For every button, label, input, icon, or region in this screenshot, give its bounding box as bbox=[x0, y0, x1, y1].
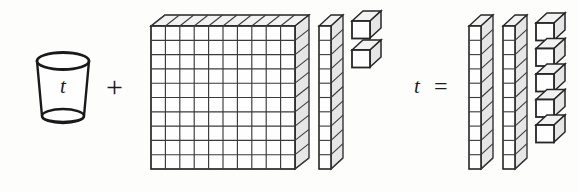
figure-canvas: t + bbox=[0, 0, 579, 192]
hundred-flat-block bbox=[148, 14, 316, 176]
ten-rod-block-right-2 bbox=[500, 14, 530, 176]
unit-cube bbox=[536, 90, 565, 118]
unit-cubes-left-group bbox=[350, 10, 386, 80]
unit-cube bbox=[536, 39, 565, 67]
plus-operator: + bbox=[106, 72, 123, 102]
cup-with-variable-t: t bbox=[28, 48, 98, 130]
unit-cube bbox=[536, 115, 565, 143]
equals-operator: = bbox=[434, 74, 448, 98]
ten-rod-block-left bbox=[316, 14, 346, 176]
unit-cube bbox=[536, 13, 565, 41]
variable-t-label: t bbox=[414, 76, 420, 97]
unit-cubes-right-group bbox=[534, 12, 570, 150]
unit-cube bbox=[352, 11, 381, 39]
unit-cube bbox=[352, 40, 381, 68]
unit-cube bbox=[536, 64, 565, 92]
cup-label-t: t bbox=[28, 74, 98, 99]
ten-rod-block-right-1 bbox=[466, 14, 496, 176]
